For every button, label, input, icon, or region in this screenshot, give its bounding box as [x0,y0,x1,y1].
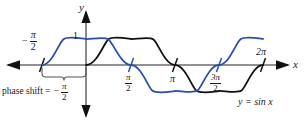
curve-label-sin-x: y = sin x [238,97,273,107]
phase-shift-minus-sign: − [54,87,59,97]
phase-shift-text: phase shift = [2,87,51,97]
x-axis-arrow-right-icon [276,60,290,70]
tick-3pi-over-2-numerator: 3π [210,73,221,82]
figure-canvas: y x 1 − π 2 π 2 π 3π 2 2π phase shift = [0,0,304,124]
tick-label-pi-over-2: π 2 [125,73,132,93]
x-axis-label: x [293,59,298,70]
tick-pi-over-2-denominator: 2 [125,84,132,93]
tick-label-neg-pi-over-2: − π 2 [22,30,37,52]
minus-sign: − [22,36,28,46]
tick-label-2pi: 2π [256,47,266,57]
tick-neg-pi-over-2-denominator: 2 [30,42,37,52]
y-axis-label: y [79,2,84,13]
tick-label-3pi-over-2: 3π 2 [210,73,221,93]
phase-shift-brace [42,68,86,81]
x-axis-arrow-left-icon [6,60,20,70]
tick-neg-pi-over-2-numerator: π [30,30,37,40]
y-axis-arrow-down-icon [81,105,90,118]
phase-shift-annotation: phase shift = − π 2 [2,82,68,102]
tick-pi-over-2-numerator: π [125,73,132,82]
phase-shift-denominator: 2 [61,93,68,102]
y-value-label-1: 1 [73,31,78,41]
tick-label-pi: π [170,74,175,84]
phase-shift-numerator: π [61,82,68,91]
tick-3pi-over-2-denominator: 2 [210,84,221,93]
